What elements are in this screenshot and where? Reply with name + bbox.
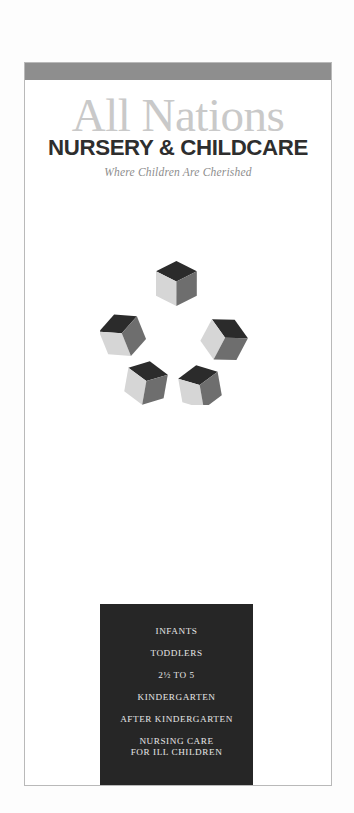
service-item-after-kindergarten: AFTER KINDERGARTEN xyxy=(106,714,247,725)
service-item-toddlers: TODDLERS xyxy=(106,648,247,659)
service-item-nursing-care-line2: FOR ILL CHILDREN xyxy=(106,747,247,758)
services-panel: INFANTS TODDLERS 2½ TO 5 KINDERGARTEN AF… xyxy=(100,604,253,786)
header-band xyxy=(25,63,331,80)
scan-canvas: All Nations NURSERY & CHILDCARE Where Ch… xyxy=(0,0,354,813)
cube-bottom-right xyxy=(176,362,223,405)
service-item-nursing-care: NURSING CARE FOR ILL CHILDREN xyxy=(106,736,247,758)
service-item-age-range: 2½ TO 5 xyxy=(106,670,247,681)
service-item-infants: INFANTS xyxy=(106,626,247,637)
cube-right xyxy=(196,310,253,369)
cubes-illustration xyxy=(100,255,260,405)
brand-secondary-title: NURSERY & CHILDCARE xyxy=(27,136,330,160)
cubes-illustration-svg xyxy=(100,255,260,405)
cube-left xyxy=(100,307,150,364)
cube-top xyxy=(156,261,197,306)
cube-bottom-left xyxy=(122,358,169,405)
brand-primary-title: All Nations xyxy=(25,90,331,140)
masthead: All Nations NURSERY & CHILDCARE Where Ch… xyxy=(25,80,331,179)
service-item-nursing-care-line1: NURSING CARE xyxy=(139,736,213,746)
brochure-page: All Nations NURSERY & CHILDCARE Where Ch… xyxy=(24,62,332,786)
brand-tagline: Where Children Are Cherished xyxy=(25,165,331,179)
service-item-kindergarten: KINDERGARTEN xyxy=(106,692,247,703)
